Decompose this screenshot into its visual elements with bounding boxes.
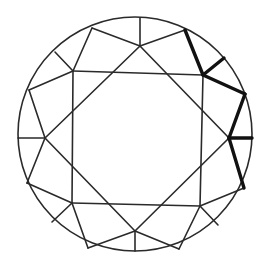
facet-edge: [200, 206, 218, 225]
facet-edge: [92, 28, 140, 46]
facet-edge: [72, 71, 73, 203]
highlighted-facet-edge: [229, 94, 245, 138]
highlighted-facet-edge: [229, 138, 244, 188]
facet-edge: [88, 231, 135, 248]
facet-edge: [73, 71, 203, 75]
facet-edge: [179, 206, 200, 249]
diamond-diagram: [0, 0, 270, 267]
facet-edge: [135, 138, 229, 231]
facet-edge: [200, 188, 244, 206]
facet-edge: [140, 46, 229, 138]
facet-edge: [45, 138, 135, 231]
facet-edge: [52, 203, 72, 222]
facet-edge: [72, 203, 200, 206]
facet-edge: [140, 30, 185, 46]
facet-edge: [72, 203, 88, 248]
highlighted-facet-edge: [203, 75, 245, 94]
facet-edge: [45, 46, 140, 138]
facet-edge: [200, 75, 203, 206]
facet-edge: [29, 71, 73, 90]
facet-edge: [135, 231, 179, 249]
facet-edge: [27, 138, 45, 183]
facet-edge: [73, 28, 92, 71]
highlighted-facet-edge: [203, 58, 224, 75]
facet-edge: [55, 52, 73, 71]
facet-edge: [29, 90, 45, 138]
diamond-facet-drawing: [0, 0, 270, 267]
girdle-circle: [18, 17, 252, 251]
highlighted-facet-lines: [185, 30, 252, 188]
